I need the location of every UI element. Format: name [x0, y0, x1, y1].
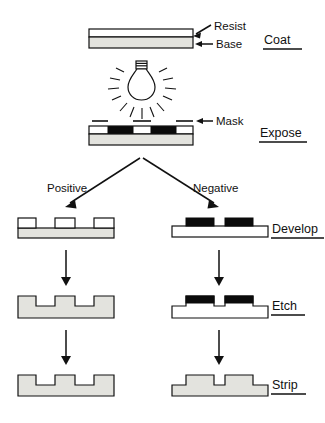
lightbulb-screw-base	[136, 61, 147, 69]
develop-positive-figure	[18, 218, 114, 238]
expose-resist-dark-2	[151, 127, 176, 134]
step-label-etch: Etch	[271, 299, 305, 315]
branch-line-positive	[70, 158, 140, 203]
strip-pos-base-profile	[18, 375, 114, 396]
arrow-etch-to-strip-right	[214, 330, 224, 365]
etch-label: Etch	[272, 299, 297, 313]
step-coat-figure	[89, 29, 193, 48]
step-expose-figure	[89, 121, 193, 145]
etch-positive-figure	[18, 296, 114, 318]
expose-label: Expose	[260, 126, 302, 140]
branch-label-positive: Positive	[47, 182, 87, 194]
develop-neg-resist-1	[186, 218, 214, 226]
base-arrow-head	[195, 41, 202, 47]
strip-neg-base-profile	[172, 375, 268, 396]
strip-positive-figure	[18, 375, 114, 396]
photolithography-diagram: Resist Base Coat	[0, 0, 325, 423]
branch-arrow-head-positive	[65, 200, 77, 209]
develop-pos-base	[18, 228, 114, 238]
branch-label-negative: Negative	[193, 182, 238, 194]
arrow-develop-to-etch-right	[214, 250, 224, 286]
develop-label: Develop	[272, 222, 318, 236]
coat-label: Coat	[264, 33, 291, 47]
step-label-coat: Coat	[263, 33, 302, 49]
expose-resist-layer	[89, 126, 193, 134]
base-label: Base	[216, 38, 242, 50]
strip-negative-figure	[172, 375, 268, 396]
develop-neg-resist-2	[225, 218, 253, 226]
coat-base-layer	[89, 37, 193, 48]
etch-negative-figure	[172, 296, 268, 318]
lightbulb-glass	[128, 69, 155, 100]
develop-negative-figure	[172, 218, 268, 237]
mask-callout: Mask	[196, 115, 244, 127]
branch-arrow-head-negative	[208, 200, 220, 209]
develop-pos-resist-2	[55, 218, 75, 228]
develop-neg-base	[172, 226, 268, 237]
base-callout: Base	[195, 38, 242, 50]
step-label-strip: Strip	[271, 378, 306, 394]
strip-label: Strip	[272, 378, 298, 392]
mask-arrow-head	[196, 118, 203, 124]
step-label-expose: Expose	[259, 126, 307, 142]
branch-line-negative	[143, 158, 214, 203]
develop-pos-resist-3	[94, 218, 114, 228]
arrow-develop-to-etch-left	[61, 250, 71, 286]
resist-callout: Resist	[193, 20, 247, 38]
diagram-canvas: Resist Base Coat	[0, 0, 325, 423]
expose-base-layer	[89, 134, 193, 145]
etch-neg-resist-1	[186, 296, 214, 303]
etch-pos-base-profile	[18, 296, 114, 318]
mask-label: Mask	[216, 115, 244, 127]
resist-label: Resist	[214, 20, 247, 32]
step-label-develop: Develop	[271, 222, 324, 238]
coat-resist-layer	[89, 29, 193, 37]
etch-neg-resist-2	[225, 296, 253, 303]
develop-pos-resist-1	[18, 218, 36, 228]
lightbulb-icon	[108, 61, 176, 119]
expose-resist-dark-1	[108, 127, 133, 134]
arrow-etch-to-strip-left	[61, 330, 71, 365]
